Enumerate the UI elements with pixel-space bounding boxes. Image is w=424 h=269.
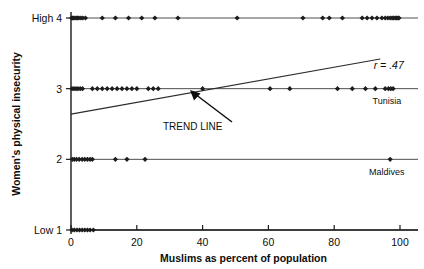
data-point (95, 86, 100, 91)
axis-group (71, 12, 418, 234)
x-tick-label-60: 60 (263, 236, 275, 248)
trend-line-annotation-arrow (190, 90, 232, 122)
data-point (119, 86, 124, 91)
arrow-shaft (195, 94, 232, 122)
data-point (373, 86, 378, 91)
data-point (83, 15, 88, 20)
data-point (126, 15, 131, 20)
data-point (100, 86, 105, 91)
data-point (360, 15, 365, 20)
x-tick-label-40: 40 (197, 236, 209, 248)
data-point (142, 157, 147, 162)
x-tick-label-80: 80 (328, 236, 340, 248)
x-tick-label-100: 100 (391, 236, 409, 248)
data-point (340, 15, 345, 20)
y-axis-title: Women's physical insecurity (10, 52, 22, 196)
data-point (105, 86, 110, 91)
data-point (110, 86, 115, 91)
y-tick-label-4: High 4 (32, 12, 63, 24)
data-point (350, 86, 355, 91)
scatter-plot-figure: 020406080100Low 123High 4r = .47TREND LI… (0, 0, 424, 269)
data-point (152, 15, 157, 20)
data-point (365, 15, 370, 20)
data-point (90, 86, 95, 91)
data-point (113, 157, 118, 162)
data-point (369, 15, 374, 20)
point-label-tunisia: Tunisia (372, 96, 401, 106)
data-point (175, 15, 180, 20)
data-point (146, 86, 151, 91)
data-point (124, 86, 129, 91)
level-lines-group (71, 18, 418, 230)
correlation-label: r = .47 (374, 59, 405, 71)
data-point (156, 86, 161, 91)
data-point (363, 86, 368, 91)
data-point (287, 86, 292, 91)
data-point (151, 86, 156, 91)
data-point (91, 227, 96, 232)
data-point (100, 15, 105, 20)
data-point (335, 86, 340, 91)
data-point (139, 15, 144, 20)
data-point (300, 15, 305, 20)
point-label-maldives: Maldives (369, 167, 405, 177)
x-tick-label-0: 0 (68, 236, 74, 248)
data-point (267, 86, 272, 91)
data-point (235, 15, 240, 20)
data-point (320, 15, 325, 20)
y-tick-label-1: Low 1 (34, 224, 62, 236)
data-point (114, 86, 119, 91)
y-tick-label-3: 3 (56, 83, 62, 95)
trend-line-label: TREND LINE (163, 121, 223, 132)
data-point (129, 86, 134, 91)
data-point (113, 15, 118, 20)
data-point (327, 15, 332, 20)
data-point (124, 157, 129, 162)
data-point (388, 157, 393, 162)
plot-canvas: 020406080100Low 123High 4r = .47TREND LI… (0, 0, 424, 269)
data-points-group (69, 15, 402, 232)
x-tick-label-20: 20 (131, 236, 143, 248)
x-axis-title: Muslims as percent of population (160, 252, 327, 264)
y-tick-label-2: 2 (56, 153, 62, 165)
text-labels-group: 020406080100Low 123High 4r = .47TREND LI… (10, 12, 409, 264)
tick-marks-group (66, 18, 400, 230)
data-point (374, 15, 379, 20)
data-point (134, 86, 139, 91)
